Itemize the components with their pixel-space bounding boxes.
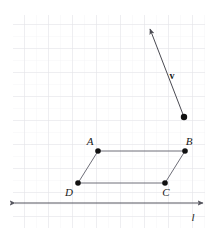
line-l-label: l	[191, 211, 194, 223]
figure-canvas: v A B C D l	[0, 0, 213, 231]
point-C-label: C	[162, 186, 170, 198]
vector-v-tail-point	[181, 114, 187, 120]
graph-paper-grid	[13, 15, 205, 228]
point-A-label: A	[86, 135, 94, 147]
point-D-dot	[75, 180, 81, 186]
point-C-dot	[162, 180, 168, 186]
geometry-figure: v A B C D l	[0, 0, 213, 231]
point-B-dot	[182, 148, 188, 154]
point-A-dot	[95, 148, 101, 154]
point-B-label: B	[186, 135, 193, 147]
grid-layer	[13, 15, 205, 228]
point-D-label: D	[64, 186, 73, 198]
vector-v-label: v	[170, 70, 175, 81]
